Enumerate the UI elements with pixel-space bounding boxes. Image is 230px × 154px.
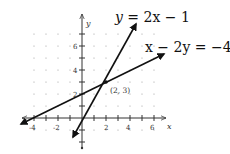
y-axis-label: y [85, 19, 91, 28]
equation-label-x-minus-2y-equals-neg4: x − 2y = −4 [145, 39, 230, 55]
x-tick-label: -2 [53, 124, 60, 132]
coordinate-plane: -4 -2 2 4 6 6 4 2 x y (2, 3) y = 2x − 1 … [0, 0, 230, 154]
x-tick-label: -4 [29, 124, 36, 132]
x-axis-label: x [167, 122, 172, 131]
y-tick-label: 2 [73, 91, 77, 99]
y-tick-label: 4 [73, 67, 78, 75]
equation-label-y-equals-2x-minus-1: y = 2x − 1 [114, 9, 190, 25]
intersection-point [104, 80, 108, 84]
line-x-minus-2y-equals-neg4 [21, 54, 164, 124]
x-tick-label: 2 [104, 124, 108, 132]
y-tick-label: 6 [73, 43, 78, 51]
x-tick-label: 4 [126, 124, 131, 132]
intersection-label: (2, 3) [110, 86, 130, 95]
y-axis-bottom-dot [81, 147, 83, 149]
x-tick-label: 6 [150, 124, 155, 132]
